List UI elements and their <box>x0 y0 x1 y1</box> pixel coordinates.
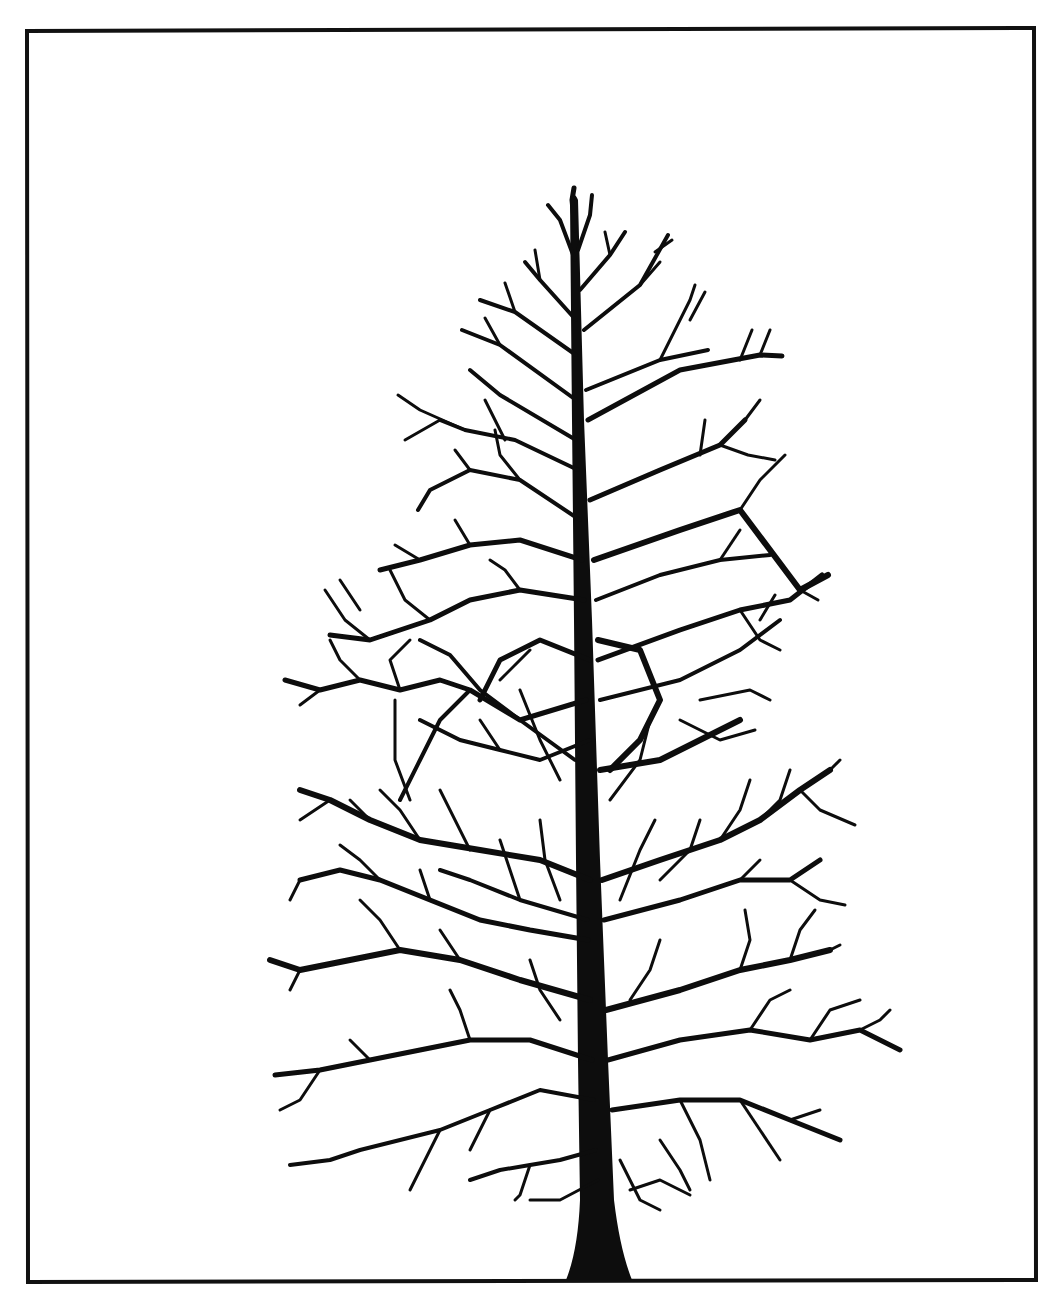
tree-illustration <box>0 0 1056 1294</box>
